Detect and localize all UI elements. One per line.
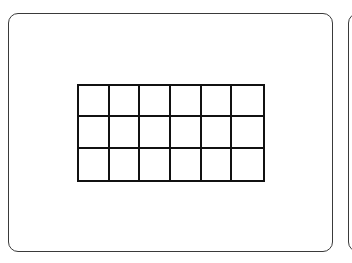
grid-cell-r1-c4 <box>171 86 202 117</box>
grid-cell-r3-c2 <box>110 149 141 180</box>
grid-cell-r2-c5 <box>202 117 233 148</box>
grid-cell-r3-c1 <box>79 149 110 180</box>
grid-cell-r2-c6 <box>232 117 263 148</box>
grid-cell-r1-c6 <box>232 86 263 117</box>
grid-cell-r1-c2 <box>110 86 141 117</box>
grid-cell-r2-c1 <box>79 117 110 148</box>
grid-cell-r2-c3 <box>140 117 171 148</box>
canvas <box>0 0 352 263</box>
grid-cell-r1-c1 <box>79 86 110 117</box>
next-diagram-card-partial <box>348 13 352 252</box>
grid-cell-r3-c5 <box>202 149 233 180</box>
grid-cell-r3-c3 <box>140 149 171 180</box>
grid-cell-r2-c2 <box>110 117 141 148</box>
grid-cell-r2-c4 <box>171 117 202 148</box>
rectangle-grid-3x6 <box>77 84 265 182</box>
grid-cell-r1-c5 <box>202 86 233 117</box>
grid-cell-r3-c4 <box>171 149 202 180</box>
grid-cell-r1-c3 <box>140 86 171 117</box>
grid-cell-r3-c6 <box>232 149 263 180</box>
